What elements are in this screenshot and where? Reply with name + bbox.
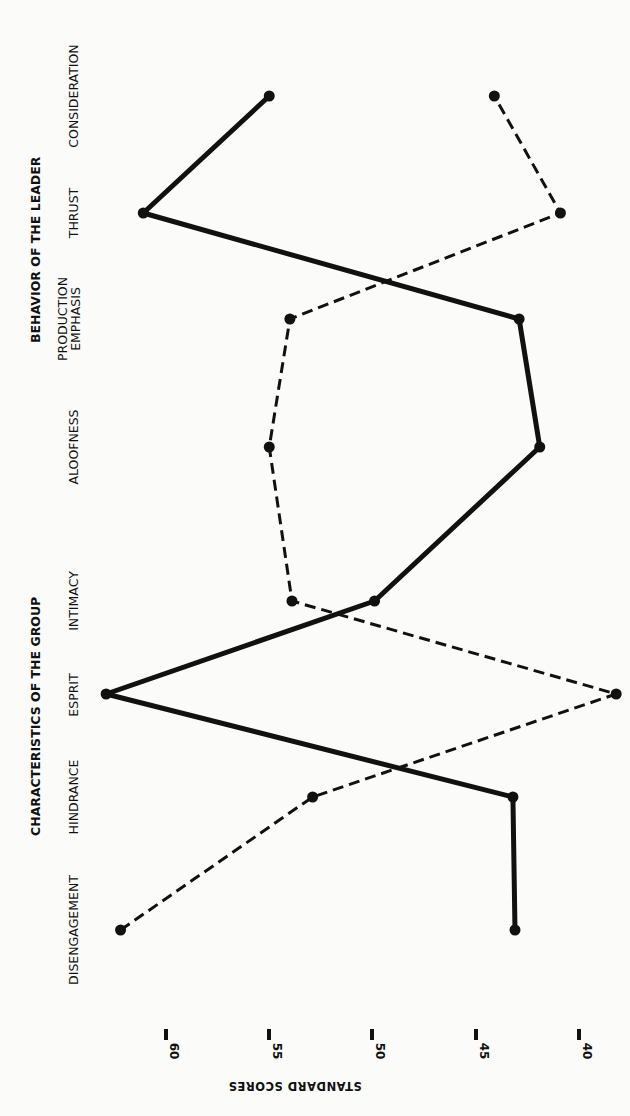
rotated-line-chart: CHARACTERISTICS OF THE GROUP BEHAVIOR OF…	[0, 0, 630, 1116]
category-label-hindrance: HINDRANCE	[66, 760, 81, 835]
category-label-consideration: CONSIDERATION	[66, 44, 81, 147]
data-point-marker	[307, 792, 318, 803]
category-label-thrust: THRUST	[66, 187, 81, 239]
category-label-emphasis: EMPHASIS	[68, 287, 83, 351]
data-point-marker	[101, 689, 112, 700]
data-point-marker	[534, 442, 545, 453]
data-point-marker	[507, 792, 518, 803]
data-point-marker	[489, 91, 500, 102]
tick-label-40: 40	[580, 1043, 594, 1060]
data-point-marker	[514, 314, 525, 325]
axis-title-standard-scores: STANDARD SCORES	[228, 1079, 362, 1093]
data-point-marker	[264, 91, 275, 102]
data-point-marker	[509, 925, 520, 936]
category-label-intimacy: INTIMACY	[66, 571, 81, 631]
data-point-marker	[286, 596, 297, 607]
tick-label-60: 60	[167, 1043, 181, 1060]
data-point-marker	[555, 208, 566, 219]
dashed-series-line	[121, 96, 617, 930]
tick-label-55: 55	[270, 1043, 284, 1060]
data-point-marker	[115, 925, 126, 936]
score-axis	[166, 1029, 579, 1040]
data-point-marker	[611, 689, 622, 700]
group-label-leader-behavior: BEHAVIOR OF THE LEADER	[28, 156, 43, 343]
data-point-marker	[138, 208, 149, 219]
data-point-marker	[264, 442, 275, 453]
solid-series-line	[106, 96, 540, 930]
tick-label-50: 50	[373, 1043, 387, 1060]
category-label-disengagement: DISENGAGEMENT	[66, 875, 81, 985]
category-label-aloofness: ALOOFNESS	[66, 409, 81, 484]
category-label-esprit: ESPRIT	[66, 673, 81, 717]
tick-label-45: 45	[477, 1043, 491, 1060]
data-point-marker	[369, 596, 380, 607]
group-label-characteristics: CHARACTERISTICS OF THE GROUP	[28, 597, 43, 836]
data-point-marker	[284, 314, 295, 325]
